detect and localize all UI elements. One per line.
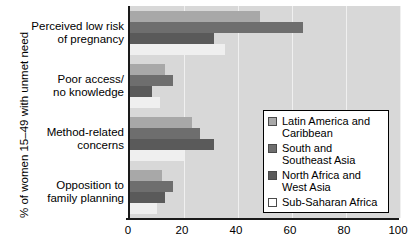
legend-item[interactable]: Sub-Saharan Africa: [268, 196, 384, 208]
gridline-100: [400, 6, 401, 218]
x-tick-label: 80: [329, 224, 359, 236]
bar: [130, 192, 165, 203]
legend-label-line: West Asia: [282, 181, 361, 193]
bar: [130, 170, 162, 181]
bar: [130, 117, 192, 128]
category-label-line: Opposition to: [18, 179, 124, 192]
bar: [130, 150, 184, 161]
legend-label-line: Caribbean: [282, 127, 370, 139]
bar: [130, 11, 260, 22]
category-label-line: no knowledge: [18, 86, 124, 99]
legend-swatch-latin-america-icon: [268, 117, 277, 126]
category-label-line: family planning: [18, 192, 124, 205]
x-tick-label: 40: [221, 224, 251, 236]
legend-label-line: South and: [282, 142, 355, 154]
category-label-line: Poor access/: [18, 73, 124, 86]
bar: [130, 97, 160, 108]
bar-group: [130, 59, 400, 112]
x-tick-label: 20: [167, 224, 197, 236]
legend-item[interactable]: Latin America andCaribbean: [268, 115, 384, 139]
bar: [130, 139, 214, 150]
bar: [130, 22, 303, 33]
legend-label: Latin America andCaribbean: [282, 115, 370, 139]
x-tick-label: 100: [383, 224, 413, 236]
category-label-group: Perceived low riskof pregnancyPoor acces…: [18, 6, 124, 218]
x-axis-line: [126, 218, 399, 220]
x-tick-label: 60: [275, 224, 305, 236]
bar-group: [130, 6, 400, 59]
category-label-line: Perceived low risk: [18, 20, 124, 33]
category-label: Method-relatedconcerns: [18, 126, 124, 152]
x-tick-label: 0: [113, 224, 143, 236]
bar-chart: % of women 15–49 with unmet need Perceiv…: [0, 0, 416, 248]
legend-swatch-north-africa-icon: [268, 171, 277, 180]
bar: [130, 75, 173, 86]
legend-label: Sub-Saharan Africa: [282, 196, 377, 208]
category-label-line: of pregnancy: [18, 33, 124, 46]
legend-item[interactable]: North Africa andWest Asia: [268, 169, 384, 193]
bar: [130, 181, 173, 192]
legend-label-line: North Africa and: [282, 169, 361, 181]
bar: [130, 86, 152, 97]
category-label: Poor access/no knowledge: [18, 73, 124, 99]
bar: [130, 64, 165, 75]
legend-label-line: Sub-Saharan Africa: [282, 196, 377, 208]
legend-swatch-south-asia-icon: [268, 144, 277, 153]
category-label-line: Method-related: [18, 126, 124, 139]
legend-label: South andSoutheast Asia: [282, 142, 355, 166]
legend-swatch-sub-saharan-icon: [268, 198, 277, 207]
bar: [130, 128, 200, 139]
bar: [130, 44, 225, 55]
category-label: Perceived low riskof pregnancy: [18, 20, 124, 46]
category-label-line: concerns: [18, 139, 124, 152]
legend: Latin America andCaribbeanSouth andSouth…: [263, 110, 389, 213]
category-label: Opposition tofamily planning: [18, 179, 124, 205]
bar: [130, 203, 157, 214]
legend-label-line: Latin America and: [282, 115, 370, 127]
bar: [130, 33, 214, 44]
legend-label: North Africa andWest Asia: [282, 169, 361, 193]
legend-label-line: Southeast Asia: [282, 154, 355, 166]
legend-item[interactable]: South andSoutheast Asia: [268, 142, 384, 166]
